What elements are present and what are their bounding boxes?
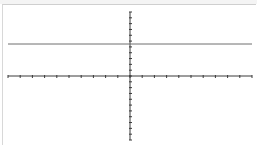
coordinate-plane bbox=[0, 0, 257, 146]
